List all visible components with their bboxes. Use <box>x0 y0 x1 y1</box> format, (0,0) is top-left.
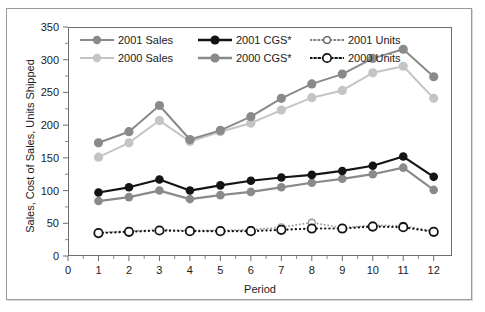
data-point <box>368 161 377 170</box>
data-point <box>399 163 408 172</box>
x-tick-label-3: 3 <box>156 264 162 276</box>
data-point <box>94 229 102 237</box>
data-point <box>247 188 256 197</box>
data-point <box>216 191 225 200</box>
series-2000-sales <box>94 62 438 162</box>
x-tick-label-0: 0 <box>65 264 71 276</box>
series-line <box>98 66 433 157</box>
legend-item-2001-cgs: 2001 CGS* <box>198 34 310 46</box>
x-tick-label-5: 5 <box>217 264 223 276</box>
data-point <box>246 112 255 121</box>
x-tick-label-12: 12 <box>428 264 440 276</box>
x-tick-label-2: 2 <box>126 264 132 276</box>
data-point <box>429 72 438 81</box>
data-point <box>94 153 103 162</box>
data-point <box>368 170 377 179</box>
data-point <box>124 127 133 136</box>
data-point <box>308 178 317 187</box>
y-tick-label-0: 0 <box>53 250 59 262</box>
data-point <box>185 135 194 144</box>
data-point <box>186 227 194 235</box>
y-tick-label-50: 50 <box>47 217 59 229</box>
x-tick-label-1: 1 <box>95 264 101 276</box>
data-point <box>368 68 377 77</box>
data-point <box>216 227 224 235</box>
data-point <box>247 176 256 185</box>
x-tick-label-10: 10 <box>367 264 379 276</box>
legend-row-2000: 2000 Sales 2000 CGS* 200 <box>80 49 410 67</box>
legend-swatch-2000-units <box>310 52 344 64</box>
data-point <box>429 173 438 182</box>
data-point <box>277 183 286 192</box>
data-point <box>125 193 134 202</box>
data-point <box>429 94 438 103</box>
data-point <box>277 173 286 182</box>
data-point <box>94 197 103 206</box>
data-point <box>155 116 164 125</box>
series-line <box>98 168 433 201</box>
data-point <box>338 174 347 183</box>
y-tick-label-150: 150 <box>41 152 59 164</box>
data-point <box>307 93 316 102</box>
legend-item-2000-units: 2000 Units <box>310 52 401 64</box>
data-point <box>369 222 377 230</box>
series-2001-units <box>95 219 437 236</box>
data-point <box>216 181 225 190</box>
legend-swatch-2000-cgs <box>198 52 232 64</box>
data-point <box>186 195 195 204</box>
legend-label-2000-sales: 2000 Sales <box>114 52 173 64</box>
data-point <box>155 175 164 184</box>
data-point <box>216 126 225 135</box>
data-point <box>338 70 347 79</box>
data-point <box>186 186 195 195</box>
data-point <box>155 226 163 234</box>
legend-item-2001-units: 2001 Units <box>310 34 401 46</box>
legend-label-2000-units: 2000 Units <box>344 52 401 64</box>
data-point <box>124 138 133 147</box>
x-tick-label-7: 7 <box>278 264 284 276</box>
x-tick-label-9: 9 <box>339 264 345 276</box>
data-point <box>338 86 347 95</box>
data-point <box>308 224 316 232</box>
data-point <box>399 223 407 231</box>
legend-row-2001: 2001 Sales 2001 CGS* 200 <box>80 31 410 49</box>
series-line <box>98 157 433 193</box>
x-tick-label-6: 6 <box>248 264 254 276</box>
legend-label-2001-units: 2001 Units <box>344 34 401 46</box>
x-tick-label-4: 4 <box>187 264 193 276</box>
legend-item-2000-sales: 2000 Sales <box>80 52 198 64</box>
y-tick-label-250: 250 <box>41 86 59 98</box>
legend-swatch-2000-sales <box>80 52 114 64</box>
legend-item-2000-cgs: 2000 CGS* <box>198 52 310 64</box>
data-point <box>399 152 408 161</box>
data-point <box>338 224 346 232</box>
data-point <box>307 79 316 88</box>
y-tick-label-300: 300 <box>41 54 59 66</box>
series-2000-cgs <box>94 163 438 205</box>
x-tick-label-11: 11 <box>398 264 409 276</box>
data-point <box>94 188 103 197</box>
x-tick-label-8: 8 <box>309 264 315 276</box>
legend-swatch-2001-cgs <box>198 34 232 46</box>
legend-label-2000-cgs: 2000 CGS* <box>232 52 292 64</box>
data-point <box>277 226 285 234</box>
legend-swatch-2001-units <box>310 34 344 46</box>
data-point <box>155 186 164 195</box>
data-point <box>277 105 286 114</box>
data-point <box>430 228 438 236</box>
data-point <box>125 228 133 236</box>
legend-swatch-2001-sales <box>80 34 114 46</box>
y-tick-label-350: 350 <box>41 21 59 33</box>
y-tick-label-100: 100 <box>41 185 59 197</box>
chart-figure: Sales, Cost of Sales, Units Shipped Peri… <box>0 0 485 312</box>
data-point <box>247 227 255 235</box>
data-point <box>338 167 347 176</box>
data-point <box>429 186 438 195</box>
legend-label-2001-cgs: 2001 CGS* <box>232 34 292 46</box>
data-point <box>155 101 164 110</box>
chart-legend: 2001 Sales 2001 CGS* 200 <box>80 31 410 67</box>
data-point <box>125 183 134 192</box>
data-point <box>308 171 317 180</box>
legend-label-2001-sales: 2001 Sales <box>114 34 173 46</box>
y-tick-label-200: 200 <box>41 119 59 131</box>
